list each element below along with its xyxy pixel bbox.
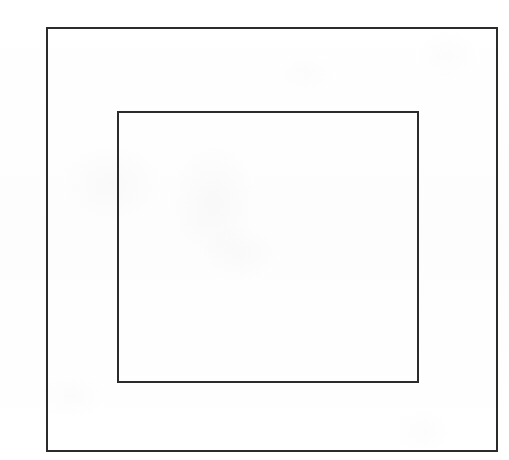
figure-page bbox=[0, 0, 509, 460]
inner-rectangle-hit-area[interactable] bbox=[115, 109, 420, 384]
